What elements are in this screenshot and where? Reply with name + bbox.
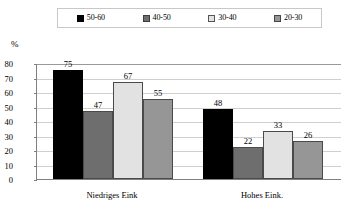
y-tick-label-0: 0 <box>0 176 13 185</box>
legend-entry-30-40: 30-40 <box>208 14 236 22</box>
y-tick-label-40: 40 <box>0 118 13 127</box>
bar-value-label: 26 <box>293 131 323 140</box>
bar-30-40-NiedrigesEink <box>113 82 143 179</box>
y-tick-label-30: 30 <box>0 133 13 142</box>
bar-value-label: 48 <box>203 99 233 108</box>
bar-value-label: 22 <box>233 137 263 146</box>
y-tick-label-80: 80 <box>0 60 13 69</box>
bar-value-label: 67 <box>113 72 143 81</box>
legend-entry-40-50: 40-50 <box>143 14 171 22</box>
bar-value-label: 75 <box>53 60 83 69</box>
bar-30-40-HohesEink <box>263 131 293 179</box>
bar-40-50-NiedrigesEink <box>83 111 113 179</box>
legend-label-40-50: 40-50 <box>153 14 171 22</box>
bar-value-label: 47 <box>83 101 113 110</box>
legend-swatch-20-30 <box>274 15 281 22</box>
plot-area: 7547675548223326 <box>36 64 341 180</box>
bar-value-label: 33 <box>263 121 293 130</box>
y-tick-label-10: 10 <box>0 162 13 171</box>
bar-20-30-NiedrigesEink <box>143 99 173 179</box>
bar-50-60-HohesEink <box>203 109 233 179</box>
category-label-0: Niedriges Eink <box>62 191 162 200</box>
y-axis-unit-label: % <box>11 40 19 49</box>
y-tick-label-20: 20 <box>0 147 13 156</box>
y-tick-mark-0 <box>34 180 37 181</box>
legend-entry-50-60: 50-60 <box>77 14 105 22</box>
legend-swatch-50-60 <box>77 15 84 22</box>
bar-20-30-HohesEink <box>293 141 323 179</box>
y-tick-label-70: 70 <box>0 75 13 84</box>
y-tick-label-60: 60 <box>0 89 13 98</box>
legend-label-50-60: 50-60 <box>87 14 105 22</box>
legend-swatch-30-40 <box>208 15 215 22</box>
y-tick-label-50: 50 <box>0 104 13 113</box>
bar-series-container: 7547675548223326 <box>37 64 341 179</box>
bar-40-50-HohesEink <box>233 147 263 179</box>
legend-label-20-30: 20-30 <box>284 14 302 22</box>
legend-swatch-40-50 <box>143 15 150 22</box>
bar-value-label: 55 <box>143 89 173 98</box>
category-label-1: Hohes Eink. <box>212 191 312 200</box>
bar-50-60-NiedrigesEink <box>53 70 83 179</box>
chart-legend: 50-60 40-50 30-40 20-30 <box>57 8 322 28</box>
legend-label-30-40: 30-40 <box>218 14 236 22</box>
legend-entry-20-30: 20-30 <box>274 14 302 22</box>
